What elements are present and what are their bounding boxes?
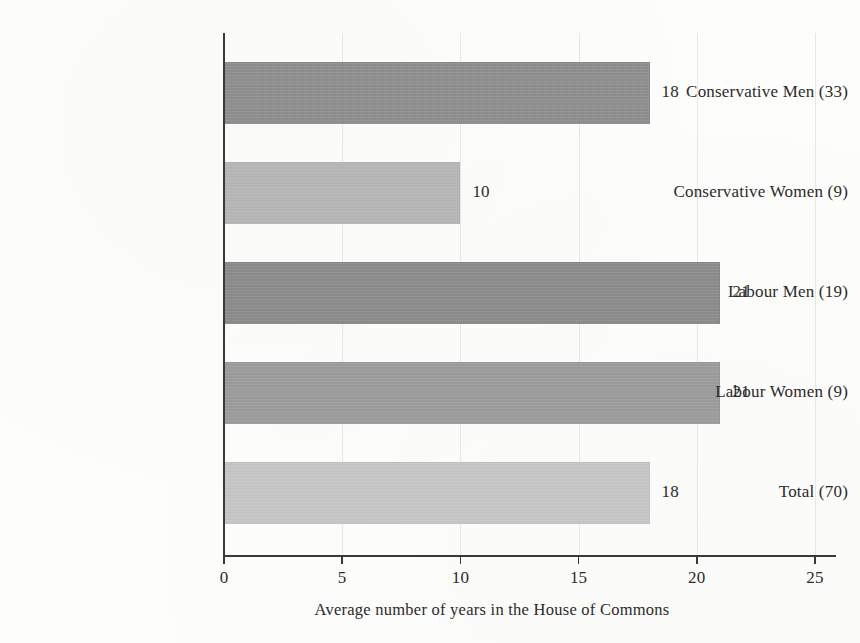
category-label: Labour Men (19) [648,282,860,302]
bar [224,362,720,424]
bar-texture [224,62,650,124]
x-tick-mark-0 [223,556,225,564]
x-tick-mark-10 [460,556,462,564]
x-tick-mark-20 [696,556,698,564]
x-tick-label-25: 25 [806,568,823,588]
category-label: Labour Women (9) [648,382,860,402]
bar-chart: 1810212118 Conservative Men (33)Conserva… [0,0,860,643]
y-axis-line [223,33,225,556]
bar [224,462,650,524]
x-axis-title: Average number of years in the House of … [0,600,860,620]
bar [224,62,650,124]
bar-texture [224,262,720,324]
x-tick-label-15: 15 [570,568,587,588]
x-axis-line [223,555,836,557]
category-label: Conservative Women (9) [648,182,860,202]
bar [224,262,720,324]
bar-texture [224,362,720,424]
bar-value-label: 10 [472,182,489,202]
bar [224,162,460,224]
x-tick-label-20: 20 [688,568,705,588]
x-tick-label-5: 5 [338,568,347,588]
x-tick-label-0: 0 [220,568,229,588]
category-label: Total (70) [648,482,860,502]
category-label: Conservative Men (33) [648,82,860,102]
x-tick-mark-5 [341,556,343,564]
x-tick-label-10: 10 [452,568,469,588]
bar-texture [224,162,460,224]
x-axis-title-text: Average number of years in the House of … [314,600,669,620]
bar-texture [224,462,650,524]
x-tick-mark-15 [578,556,580,564]
x-tick-mark-25 [814,556,816,564]
